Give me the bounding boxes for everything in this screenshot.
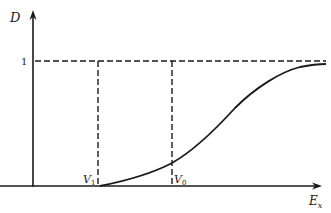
x-axis-label: Ex [308,194,323,210]
v1-label-sub: 1 [91,179,95,187]
v0-label-sub: 0 [182,179,186,187]
y-tick-label-one: 1 [21,56,27,67]
x-axis-label-main: E [308,194,318,208]
v1-label: V1 [83,173,95,187]
x-axis-label-sub: x [318,201,323,210]
y-axis-label: D [9,10,21,25]
d-curve [100,64,326,186]
v0-label: V0 [174,173,186,187]
diagram-canvas: D 1 Ex V1 V0 [0,0,331,213]
